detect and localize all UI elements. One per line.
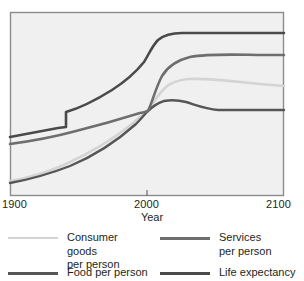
chart-figure: 1900 2000 2100 Year Consumer goods per p… [0,0,304,281]
legend-label-food-per-person: Food per person [67,266,148,280]
legend-swatch-services [160,237,210,240]
legend-label-services: Services per person [219,231,272,258]
legend-item-life-expectancy: Life expectancy [160,266,300,280]
plot-area-background [11,13,284,196]
x-axis-title: Year [0,211,304,223]
legend-item-services: Services per person [160,231,300,258]
legend-item-food-per-person: Food per person [8,266,148,280]
legend-swatch-food-per-person [8,272,58,275]
legend-label-life-expectancy: Life expectancy [219,266,295,280]
xtick-label-2000: 2000 [134,198,159,210]
legend-swatch-life-expectancy [160,272,210,275]
chart-legend: Consumer goods per person Services per p… [0,231,304,281]
xtick-label-2100: 2100 [266,198,291,210]
legend-swatch-consumer-goods [8,237,58,239]
xtick-label-1900: 1900 [2,198,27,210]
